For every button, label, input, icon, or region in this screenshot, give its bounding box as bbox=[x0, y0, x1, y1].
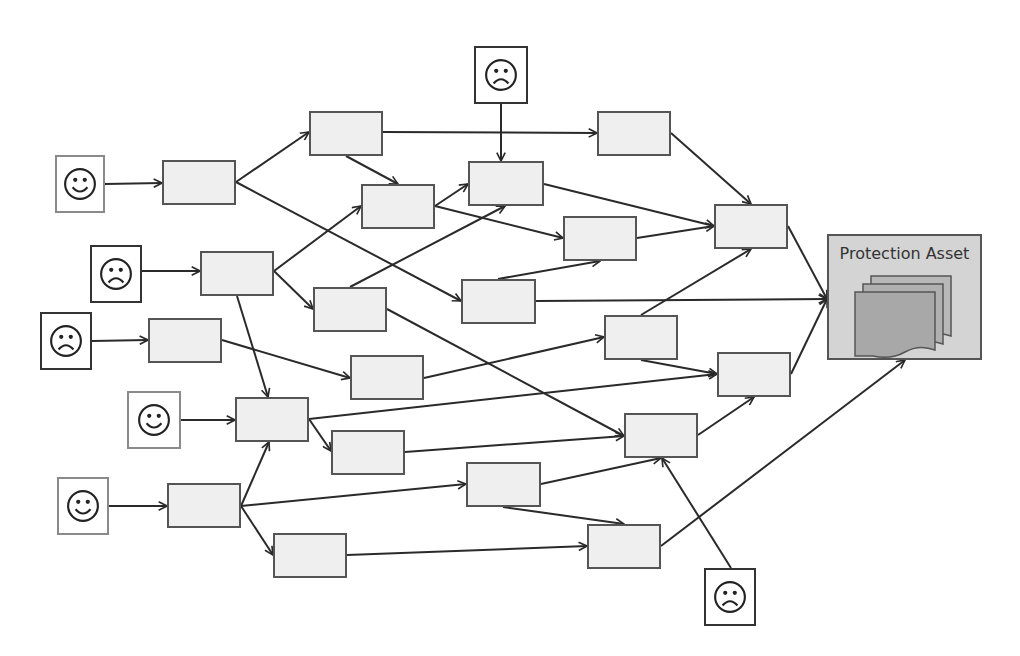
attack-path-arrow bbox=[347, 546, 587, 555]
attack-path-arrow bbox=[241, 506, 273, 555]
protection-asset-label: Protection Asset bbox=[829, 244, 980, 263]
smiley-face-icon bbox=[66, 489, 100, 523]
attack-step-node[interactable] bbox=[167, 483, 241, 528]
stacked-documents-icon bbox=[853, 270, 963, 360]
attack-path-arrow bbox=[662, 458, 731, 568]
attack-step-node[interactable] bbox=[235, 397, 309, 442]
legitimate-user-actor[interactable] bbox=[127, 391, 181, 449]
frowning-face-icon bbox=[713, 580, 747, 614]
attack-step-node[interactable] bbox=[717, 352, 791, 397]
attacker-actor[interactable] bbox=[90, 245, 142, 303]
attack-step-node[interactable] bbox=[331, 430, 405, 475]
attack-path-arrow bbox=[671, 133, 751, 204]
attack-path-arrow bbox=[346, 156, 398, 184]
attack-path-arrow bbox=[641, 249, 751, 315]
protection-asset-node[interactable]: Protection Asset bbox=[827, 234, 982, 360]
attack-path-arrow bbox=[791, 299, 827, 374]
attack-step-node[interactable] bbox=[309, 111, 383, 156]
attack-step-node[interactable] bbox=[468, 161, 544, 206]
attack-path-arrow bbox=[241, 484, 466, 506]
attack-step-node[interactable] bbox=[350, 355, 424, 400]
attacker-actor[interactable] bbox=[474, 46, 528, 104]
attack-path-arrow bbox=[222, 340, 350, 378]
attacker-actor[interactable] bbox=[704, 568, 756, 626]
frowning-face-icon bbox=[484, 58, 518, 92]
attack-path-arrow bbox=[536, 299, 827, 301]
legitimate-user-actor[interactable] bbox=[55, 155, 105, 213]
attack-path-arrow bbox=[309, 419, 331, 451]
attack-step-node[interactable] bbox=[200, 251, 274, 296]
attack-path-arrow bbox=[641, 360, 717, 374]
attack-path-arrow bbox=[698, 397, 754, 435]
frowning-face-icon bbox=[49, 324, 83, 358]
attack-path-arrow bbox=[105, 183, 162, 184]
attack-step-node[interactable] bbox=[714, 204, 788, 249]
frowning-face-icon bbox=[99, 257, 133, 291]
attack-step-node[interactable] bbox=[563, 216, 637, 261]
attack-path-arrow bbox=[92, 340, 148, 341]
attack-path-arrow bbox=[241, 442, 269, 506]
attack-path-arrow bbox=[236, 132, 309, 182]
attack-step-node[interactable] bbox=[313, 287, 387, 332]
attacker-actor[interactable] bbox=[40, 312, 92, 370]
attack-path-arrow bbox=[541, 458, 661, 484]
smiley-face-icon bbox=[137, 403, 171, 437]
attack-step-node[interactable] bbox=[361, 184, 435, 229]
attack-step-node[interactable] bbox=[162, 160, 236, 205]
attack-step-node[interactable] bbox=[461, 279, 536, 324]
attack-path-arrow bbox=[503, 507, 624, 524]
attack-step-node[interactable] bbox=[273, 533, 347, 578]
attack-path-arrow bbox=[637, 226, 714, 238]
attack-path-arrow bbox=[435, 184, 468, 206]
attack-step-node[interactable] bbox=[148, 318, 222, 363]
attack-step-node[interactable] bbox=[597, 111, 671, 156]
attack-graph-diagram: Protection Asset bbox=[0, 0, 1020, 656]
attack-step-node[interactable] bbox=[466, 462, 541, 507]
legitimate-user-actor[interactable] bbox=[57, 477, 109, 535]
attack-path-arrow bbox=[498, 261, 600, 279]
attack-step-node[interactable] bbox=[624, 413, 698, 458]
attack-path-arrow bbox=[274, 206, 361, 271]
smiley-face-icon bbox=[63, 167, 97, 201]
attack-path-arrow bbox=[383, 132, 597, 133]
attack-step-node[interactable] bbox=[604, 315, 678, 360]
attack-path-arrow bbox=[405, 436, 624, 452]
attack-path-arrow bbox=[274, 271, 313, 309]
attack-step-node[interactable] bbox=[587, 524, 661, 569]
attack-path-arrow bbox=[788, 226, 827, 299]
